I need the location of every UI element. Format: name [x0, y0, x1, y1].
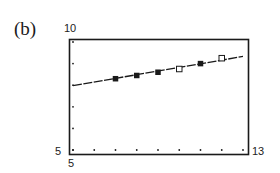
x-tick-dot [157, 149, 159, 151]
x-tick-dot [200, 149, 202, 151]
y-tick-dot [72, 149, 74, 151]
x-tick-dot [115, 149, 117, 151]
y-tick-dot [72, 41, 74, 43]
x-tick-dot [242, 149, 244, 151]
y-tick-dot [72, 127, 74, 129]
filled-square-marker [198, 61, 204, 67]
tick-marks [72, 41, 244, 151]
data-points [113, 55, 225, 81]
y-tick-dot [72, 63, 74, 65]
open-square-marker [177, 66, 183, 72]
x-tick-dot [136, 149, 138, 151]
x-tick-dot [93, 149, 95, 151]
filled-square-marker [134, 73, 140, 79]
chart-plot [0, 0, 280, 173]
open-square-marker [219, 55, 225, 61]
filled-square-marker [113, 76, 119, 82]
x-tick-dot [221, 149, 223, 151]
x-tick-dot [178, 149, 180, 151]
y-tick-dot [72, 106, 74, 108]
filled-square-marker [155, 69, 161, 75]
